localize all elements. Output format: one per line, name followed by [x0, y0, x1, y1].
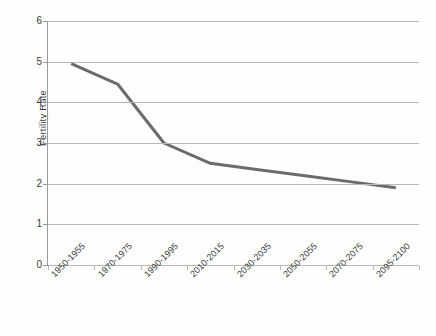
- y-axis-tick-mark: [43, 62, 48, 63]
- plot-area: [48, 21, 419, 265]
- x-axis-tick-mark: [234, 266, 235, 270]
- y-axis-tick-label: 0: [28, 259, 42, 270]
- x-axis-tick-mark: [48, 266, 49, 270]
- y-axis-tick-labels: 0123456: [22, 0, 42, 336]
- y-axis-tick-mark: [43, 143, 48, 144]
- x-axis-tick-mark: [94, 266, 95, 270]
- y-axis-tick-label: 3: [28, 137, 42, 148]
- line-chart: Fertility Rate 0123456 1950-19551970-197…: [0, 0, 436, 336]
- gridline: [48, 21, 419, 22]
- gridline: [48, 184, 419, 185]
- y-axis-tick-label: 1: [28, 218, 42, 229]
- y-axis-tick-label: 6: [28, 15, 42, 26]
- x-axis-tick-mark: [326, 266, 327, 270]
- y-axis-tick-mark: [43, 184, 48, 185]
- y-axis-tick-mark: [43, 21, 48, 22]
- x-axis-tick-mark: [373, 266, 374, 270]
- gridline: [48, 62, 419, 63]
- y-axis-tick-label: 4: [28, 96, 42, 107]
- x-axis-tick-mark: [187, 266, 188, 270]
- y-axis-tick-mark: [43, 102, 48, 103]
- gridline: [48, 143, 419, 144]
- x-axis-tick-mark: [141, 266, 142, 270]
- gridline: [48, 102, 419, 103]
- gridline: [48, 224, 419, 225]
- y-axis-tick-label: 5: [28, 56, 42, 67]
- x-axis-tick-mark: [280, 266, 281, 270]
- y-axis-tick-label: 2: [28, 178, 42, 189]
- y-axis-tick-mark: [43, 224, 48, 225]
- x-axis-tick-mark: [419, 266, 420, 270]
